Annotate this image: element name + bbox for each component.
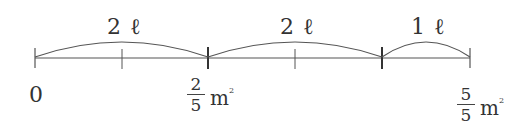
segment-2-unit: ℓ [303, 14, 315, 39]
segment-1-label: 2 ℓ [107, 14, 142, 40]
segment-3-amount: 1 [411, 14, 426, 39]
end-fraction: 5 5 [457, 85, 475, 124]
mid-numerator: 2 [191, 75, 202, 93]
end-unit: m2 [480, 96, 504, 120]
segment-3-unit: ℓ [434, 14, 446, 39]
segment-3-label: 1 ℓ [411, 14, 446, 40]
mid-unit-base: m [210, 86, 229, 110]
arc-segment-3 [382, 42, 470, 57]
mid-unit-sup: 2 [229, 86, 234, 95]
segment-1-amount: 2 [107, 14, 122, 39]
mid-fraction: 2 5 [187, 75, 205, 114]
number-line-graphic [0, 0, 531, 136]
end-unit-sup: 2 [499, 96, 504, 105]
segment-2-amount: 2 [280, 14, 295, 39]
end-denominator: 5 [461, 106, 472, 124]
segment-1-unit: ℓ [130, 14, 142, 39]
end-numerator: 5 [461, 85, 472, 103]
zero-label: 0 [29, 82, 43, 107]
mid-denominator: 5 [191, 96, 202, 114]
end-unit-base: m [480, 96, 499, 120]
segment-2-label: 2 ℓ [280, 14, 315, 40]
mid-unit: m2 [210, 86, 234, 110]
